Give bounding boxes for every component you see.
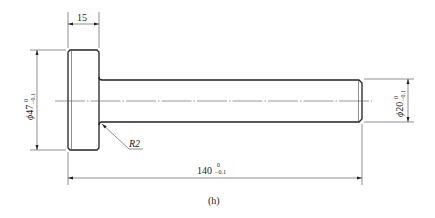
technical-drawing: 15 ϕ47 0 −0.1 ϕ20 0 −0.1 140: [0, 0, 435, 218]
shaft-diameter-lower-tol: −0.1: [400, 90, 406, 101]
flange-diameter-upper-tol: 0: [23, 99, 29, 102]
flange-width-dimension: 15: [68, 12, 99, 48]
shaft-diameter-upper-tol: 0: [393, 96, 399, 99]
total-length-lower-tol: −0.1: [215, 169, 226, 175]
figure-caption: (h): [208, 195, 220, 207]
fillet-radius-label: R2: [128, 138, 140, 149]
flange-width-label: 15: [77, 12, 87, 23]
total-length-label: 140: [197, 165, 212, 176]
flange-diameter-lower-tol: −0.1: [30, 93, 36, 104]
svg-text:ϕ20: ϕ20: [394, 102, 405, 117]
flange: [68, 50, 99, 150]
total-length-upper-tol: 0: [217, 162, 220, 168]
shaft-diameter-value: 20: [394, 102, 405, 112]
fillet-radius-callout: R2: [102, 124, 143, 149]
shaft-diameter-dimension: ϕ20 0 −0.1: [364, 79, 414, 122]
flange-diameter-dimension: ϕ47 0 −0.1: [23, 50, 66, 150]
svg-text:ϕ47: ϕ47: [24, 105, 35, 120]
part-outline: [68, 50, 362, 150]
flange-diameter-value: 47: [24, 105, 35, 115]
